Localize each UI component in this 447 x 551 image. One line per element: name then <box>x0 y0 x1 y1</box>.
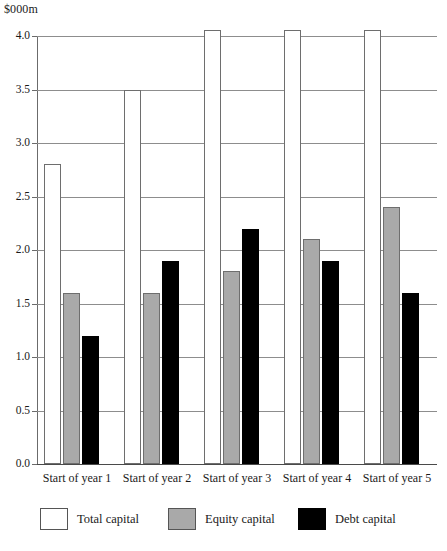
gridline <box>37 464 437 465</box>
y-axis-tick-label: 1.5 <box>2 298 30 310</box>
x-axis-label: Start of year 1 <box>37 470 117 486</box>
y-axis-tick-label: 2.5 <box>2 191 30 203</box>
y-axis-tick-label: 3.0 <box>2 137 30 149</box>
bar-equity <box>383 207 400 464</box>
bar-debt <box>402 293 419 464</box>
bar-debt <box>242 229 259 464</box>
bar-debt <box>162 261 179 464</box>
bar-total <box>284 30 301 464</box>
legend-swatch-total <box>40 508 68 530</box>
plot-area <box>37 36 437 464</box>
bar-total <box>124 90 141 465</box>
y-axis-tick-label: 3.5 <box>2 84 30 96</box>
bar-debt <box>82 336 99 464</box>
bar-equity <box>143 293 160 464</box>
y-axis-tick-label: 2.0 <box>2 244 30 256</box>
bar-equity <box>63 293 80 464</box>
legend-label: Total capital <box>77 508 139 530</box>
x-axis-label: Start of year 5 <box>357 470 437 486</box>
bar-equity <box>223 271 240 464</box>
legend-swatch-equity <box>168 508 196 530</box>
bar-total <box>204 30 221 464</box>
legend-swatch-debt <box>298 508 326 530</box>
y-axis-tick-label: 4.0 <box>2 30 30 42</box>
x-axis-label: Start of year 4 <box>277 470 357 486</box>
x-axis-label: Start of year 3 <box>197 470 277 486</box>
x-axis-category-labels: Start of year 1Start of year 2Start of y… <box>37 470 437 490</box>
bar-debt <box>322 261 339 464</box>
bar-equity <box>303 239 320 464</box>
y-axis-tick-label: 0.5 <box>2 405 30 417</box>
x-axis-label: Start of year 2 <box>117 470 197 486</box>
legend-item: Total capital <box>40 508 139 530</box>
legend-label: Equity capital <box>205 508 275 530</box>
legend-item: Debt capital <box>298 508 396 530</box>
y-axis-tick-label: 0.0 <box>2 458 30 470</box>
bar-total <box>364 30 381 464</box>
legend-item: Equity capital <box>168 508 275 530</box>
bar-chart: $000m 0.00.51.01.52.02.53.03.54.0 Start … <box>0 0 447 551</box>
bar-total <box>44 164 61 464</box>
y-axis-tick-labels: 0.00.51.01.52.02.53.03.54.0 <box>0 0 30 551</box>
y-axis-tick-label: 1.0 <box>2 351 30 363</box>
legend-label: Debt capital <box>335 508 396 530</box>
chart-legend: Total capitalEquity capitalDebt capital <box>37 508 437 538</box>
